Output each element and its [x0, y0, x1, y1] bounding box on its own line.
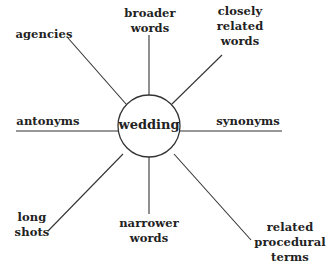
label-line: related	[208, 19, 272, 34]
label-line: broader	[120, 6, 180, 21]
label-line: narrower	[116, 216, 182, 231]
label-line: words	[208, 34, 272, 49]
label-line: long	[12, 210, 52, 225]
label-line: agencies	[14, 27, 74, 42]
label-line: words	[116, 231, 182, 246]
label-line: shots	[12, 225, 52, 240]
label-line: antonyms	[16, 114, 80, 129]
label-broader-words: broader words	[120, 6, 180, 36]
label-closely-related-words: closely related words	[208, 4, 272, 49]
spoke-line-agencies	[68, 38, 126, 104]
hub-label-wedding: wedding	[118, 117, 180, 132]
label-related-procedural-terms: related procedural terms	[252, 220, 328, 265]
label-antonyms: antonyms	[16, 114, 80, 129]
label-line: procedural	[252, 235, 328, 250]
label-narrower-words: narrower words	[116, 216, 182, 246]
label-line: terms	[252, 250, 328, 265]
spoke-line-long-shots	[48, 154, 123, 231]
spoke-line-closely-related-words	[172, 55, 222, 104]
label-line: closely	[208, 4, 272, 19]
label-long-shots: long shots	[12, 210, 52, 240]
label-line: related	[252, 220, 328, 235]
label-synonyms: synonyms	[216, 114, 280, 129]
spoke-line-related-procedural-terms	[174, 154, 251, 240]
label-agencies: agencies	[14, 27, 74, 42]
label-line: words	[120, 21, 180, 36]
label-line: synonyms	[216, 114, 280, 129]
